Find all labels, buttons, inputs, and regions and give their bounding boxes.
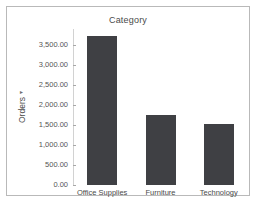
y-axis-tick-mark (73, 165, 76, 166)
x-axis-category-label: Office Supplies (77, 188, 127, 197)
y-axis-tick-mark (73, 45, 76, 46)
y-axis-tick-mark (73, 85, 76, 86)
y-axis-title-container: Orders ▾ (15, 47, 29, 167)
chart-frame: Category Orders ▾ 0.00500.001,000.001,50… (6, 6, 250, 196)
y-axis-tick-label: 500.00 (45, 160, 68, 169)
x-axis-category-label: Furniture (145, 188, 175, 197)
bar[interactable] (146, 115, 176, 185)
y-axis-line (73, 29, 74, 185)
y-axis-tick-label: 3,500.00 (39, 40, 68, 49)
y-axis-tick-label: 1,500.00 (39, 120, 68, 129)
y-axis-tick-label: 2,500.00 (39, 80, 68, 89)
y-axis-tick-mark (73, 145, 76, 146)
y-axis-tick-label: 3,000.00 (39, 60, 68, 69)
y-axis-tick-mark (73, 185, 76, 186)
y-axis-tick-mark (73, 105, 76, 106)
chart-title: Category (7, 15, 249, 25)
y-axis-tick-label: 0.00 (53, 180, 68, 189)
x-axis-category-label: Technology (200, 188, 238, 197)
sort-descending-icon: ▾ (18, 91, 24, 94)
y-axis-tick-mark (73, 65, 76, 66)
y-axis-tick-label: 1,000.00 (39, 140, 68, 149)
y-axis-title: Orders ▾ (17, 91, 27, 123)
y-axis-title-label: Orders (17, 97, 27, 123)
plot-area: 0.00500.001,000.001,500.002,000.002,500.… (73, 29, 248, 185)
bar[interactable] (204, 124, 234, 185)
y-axis-tick-mark (73, 125, 76, 126)
bar[interactable] (87, 36, 117, 185)
y-axis-tick-label: 2,000.00 (39, 100, 68, 109)
